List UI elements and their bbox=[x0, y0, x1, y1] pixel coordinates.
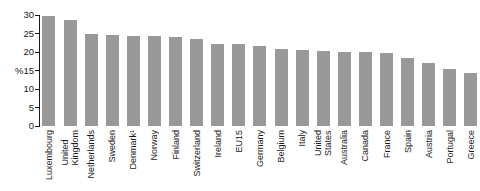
bar bbox=[422, 63, 435, 127]
bar bbox=[106, 35, 119, 127]
category-label-cell: Australia bbox=[334, 130, 355, 191]
category-label: Greece bbox=[466, 130, 476, 160]
bar bbox=[232, 44, 245, 126]
category-label: EU15 bbox=[234, 130, 244, 153]
bar bbox=[275, 49, 288, 126]
category-label-cell: EU15 bbox=[228, 130, 249, 191]
category-label: United Kingdom bbox=[60, 130, 80, 166]
y-tick-label: %15 bbox=[0, 65, 34, 77]
bar bbox=[64, 20, 77, 127]
y-axis-line bbox=[39, 15, 40, 127]
bar bbox=[464, 73, 477, 127]
category-label-cell: Finland bbox=[165, 130, 186, 191]
bar bbox=[211, 44, 224, 127]
y-tick bbox=[35, 33, 39, 34]
bar bbox=[401, 58, 414, 126]
bar bbox=[296, 50, 309, 126]
category-label: Australia bbox=[339, 130, 349, 165]
bar bbox=[253, 46, 266, 126]
category-label-cell: Luxembourg bbox=[38, 130, 59, 191]
y-tick bbox=[35, 70, 39, 71]
category-label: Ireland bbox=[213, 130, 223, 158]
category-label-cell: Belgium bbox=[271, 130, 292, 191]
category-label: Portugal bbox=[445, 130, 455, 164]
category-label: Belgium bbox=[276, 130, 286, 163]
category-label: Italy bbox=[297, 130, 307, 147]
y-tick-label: 10 bbox=[0, 83, 34, 95]
y-tick-label: 25 bbox=[0, 28, 34, 40]
category-label-cell: Germany bbox=[249, 130, 270, 191]
category-label-cell: Denmark¹ bbox=[123, 130, 144, 191]
y-tick bbox=[35, 52, 39, 53]
plot-area: 0510%15202530LuxembourgUnited KingdomNet… bbox=[0, 0, 480, 190]
bar bbox=[169, 37, 182, 126]
bar bbox=[338, 52, 351, 127]
y-tick-label: 5 bbox=[0, 102, 34, 114]
y-tick-label: 30 bbox=[0, 9, 34, 21]
category-label: Netherlands bbox=[86, 130, 96, 179]
category-label: Switzerland bbox=[192, 130, 202, 177]
category-label-cell: Switzerland bbox=[186, 130, 207, 191]
category-label: Canada bbox=[360, 130, 370, 162]
bar bbox=[85, 34, 98, 126]
category-label-cell: Portugal bbox=[439, 130, 460, 191]
category-label: Norway bbox=[149, 130, 159, 161]
category-label: Germany bbox=[255, 130, 265, 167]
bar bbox=[359, 52, 372, 127]
category-label: France bbox=[382, 130, 392, 158]
category-label-cell: United Kingdom bbox=[60, 130, 81, 191]
bar bbox=[42, 16, 55, 127]
category-label-cell: Netherlands bbox=[81, 130, 102, 191]
y-tick bbox=[35, 89, 39, 90]
category-label-cell: Sweden bbox=[102, 130, 123, 191]
y-tick-label: 20 bbox=[0, 46, 34, 58]
category-label-cell: Austria bbox=[418, 130, 439, 191]
category-label-cell: Norway bbox=[144, 130, 165, 191]
bar bbox=[443, 69, 456, 126]
category-label: Spain bbox=[403, 130, 413, 153]
category-label: Finland bbox=[171, 130, 181, 160]
category-label: Luxembourg bbox=[44, 130, 54, 180]
y-tick bbox=[35, 107, 39, 108]
category-label-cell: Greece bbox=[460, 130, 480, 191]
bar bbox=[190, 39, 203, 126]
category-label-cell: Spain bbox=[397, 130, 418, 191]
category-label: Denmark¹ bbox=[128, 130, 138, 170]
bar bbox=[127, 36, 140, 127]
category-label-cell: Italy bbox=[292, 130, 313, 191]
y-tick bbox=[35, 15, 39, 16]
bar-chart: 0510%15202530LuxembourgUnited KingdomNet… bbox=[0, 0, 480, 190]
category-label-cell: Canada bbox=[355, 130, 376, 191]
bar bbox=[148, 36, 161, 126]
y-tick-label: 0 bbox=[0, 120, 34, 132]
category-label-cell: United States bbox=[313, 130, 334, 191]
bar bbox=[317, 51, 330, 126]
category-label-cell: Ireland bbox=[207, 130, 228, 191]
category-label: United States bbox=[313, 130, 333, 156]
y-tick bbox=[35, 126, 39, 127]
category-label: Sweden bbox=[107, 130, 117, 163]
bar bbox=[380, 53, 393, 127]
category-label: Austria bbox=[424, 130, 434, 158]
category-label-cell: France bbox=[376, 130, 397, 191]
